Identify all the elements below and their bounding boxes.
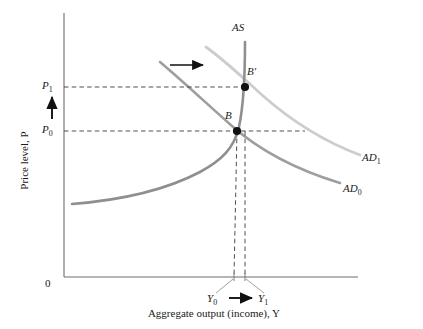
point-b-prime-label: B′ xyxy=(247,66,256,77)
as-curve xyxy=(72,42,245,204)
y1-subscript: 1 xyxy=(264,298,268,307)
ad1-curve-label: AD1 xyxy=(362,152,381,166)
as-ad-diagram: Price level, P Aggregate output (income)… xyxy=(0,0,423,329)
p0-subscript: 0 xyxy=(49,129,53,138)
axes xyxy=(64,13,358,277)
y0-guide-vertical xyxy=(234,131,237,277)
y0-subscript: 0 xyxy=(213,298,217,307)
leader-lines xyxy=(216,279,264,293)
y1-leader xyxy=(246,279,264,293)
p1-subscript: 1 xyxy=(49,85,53,94)
ad1-subscript: 1 xyxy=(377,157,381,166)
guide-lines xyxy=(64,87,305,277)
point-b xyxy=(233,127,241,135)
price-level-p0-label: P0 xyxy=(42,124,53,138)
as-curve-label: AS xyxy=(232,22,244,33)
ad0-subscript: 0 xyxy=(358,188,362,197)
ad1-curve xyxy=(206,47,360,155)
ad1-symbol: AD xyxy=(362,151,377,163)
diagram-canvas xyxy=(0,0,423,329)
x-axis-title: Aggregate output (income), Y xyxy=(64,308,364,319)
point-b-prime xyxy=(241,83,249,91)
p1-symbol: P xyxy=(42,79,49,91)
ad0-curve xyxy=(160,62,340,183)
y0-leader xyxy=(216,279,233,293)
origin-label: 0 xyxy=(45,278,51,289)
price-level-p1-label: P1 xyxy=(42,80,53,94)
ad0-curve-label: AD0 xyxy=(343,183,362,197)
ad0-symbol: AD xyxy=(343,182,358,194)
y-axis-title: Price level, P xyxy=(19,91,30,231)
output-y1-label: Y1 xyxy=(258,293,268,307)
p0-symbol: P xyxy=(42,123,49,135)
output-y0-label: Y0 xyxy=(207,293,217,307)
point-b-label: B xyxy=(225,110,232,121)
